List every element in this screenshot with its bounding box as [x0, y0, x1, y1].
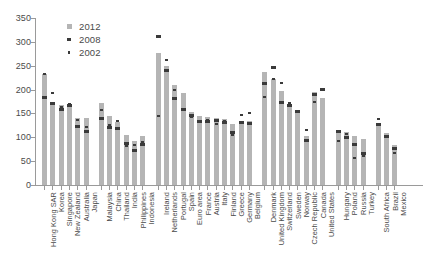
- marker-2002: [206, 119, 209, 121]
- x-axis-tick-mark: [191, 186, 192, 190]
- bar-2012: [164, 66, 169, 185]
- marker-2008: [262, 82, 267, 85]
- legend-label: 2012: [79, 21, 101, 32]
- marker-2008: [132, 149, 137, 152]
- marker-2008: [115, 127, 120, 130]
- x-axis-tick-mark: [322, 186, 323, 190]
- x-axis-label: Switzerland: [285, 192, 294, 231]
- x-axis-tick-mark: [183, 186, 184, 190]
- y-axis-tick-label: 0: [0, 180, 31, 190]
- bar-column: [304, 18, 309, 185]
- x-axis-tick-mark: [346, 186, 347, 190]
- bar-column: [392, 18, 397, 185]
- bar-2012: [239, 124, 244, 185]
- marker-2002: [296, 110, 299, 112]
- x-axis-label: Indonesia: [147, 192, 156, 225]
- x-axis-label: India: [130, 192, 139, 208]
- marker-2002: [263, 96, 266, 98]
- bar-column: [42, 18, 47, 185]
- marker-2002: [288, 102, 291, 104]
- x-axis-tick-mark: [174, 186, 175, 190]
- bar-2012: [214, 118, 219, 185]
- marker-2002: [157, 115, 160, 117]
- bar-column: [222, 18, 227, 185]
- marker-2008: [164, 69, 169, 72]
- bar-2012: [99, 103, 104, 185]
- y-axis-tick-mark: [31, 113, 35, 114]
- x-axis-label: United States: [327, 192, 336, 237]
- x-axis-label: Czech Republic: [310, 192, 319, 244]
- x-axis-tick-mark: [241, 186, 242, 190]
- y-axis-tick-label: 350: [0, 13, 31, 23]
- y-axis-tick-label: 200: [0, 85, 31, 95]
- bar-column: [107, 18, 112, 185]
- bar-2012: [42, 74, 47, 185]
- marker-2008: [336, 130, 341, 133]
- marker-2002: [248, 112, 251, 114]
- bar-2012: [205, 117, 210, 185]
- y-axis-tick-label: 100: [0, 132, 31, 142]
- x-axis-label: South Africa: [382, 192, 391, 232]
- bar-2012: [384, 133, 389, 185]
- x-axis-tick-mark: [232, 186, 233, 190]
- marker-2002: [385, 136, 388, 138]
- bar-column: [320, 18, 325, 185]
- bar-column: [140, 18, 145, 185]
- marker-2008: [84, 130, 89, 133]
- marker-2002: [182, 109, 185, 111]
- y-axis-tick-label: 150: [0, 108, 31, 118]
- marker-2002: [133, 144, 136, 146]
- marker-2008: [42, 96, 47, 99]
- marker-2008: [361, 152, 366, 155]
- marker-2008: [271, 66, 276, 69]
- x-axis-tick-mark: [52, 186, 53, 190]
- bar-2012: [156, 53, 161, 185]
- bar-2012: [247, 121, 252, 185]
- x-axis-tick-mark: [338, 186, 339, 190]
- bar-2012: [344, 132, 349, 185]
- marker-2002: [76, 119, 79, 121]
- x-axis-tick-mark: [142, 186, 143, 190]
- marker-2008: [247, 122, 252, 125]
- marker-2002: [313, 101, 316, 103]
- marker-2002: [125, 145, 128, 147]
- bar-column: [124, 18, 129, 185]
- bar-2012: [172, 85, 177, 185]
- marker-2002: [321, 89, 324, 91]
- marker-2008: [376, 123, 381, 126]
- bar-column: [181, 18, 186, 185]
- x-axis-tick-mark: [109, 186, 110, 190]
- marker-2002: [173, 89, 176, 91]
- bar-2012: [50, 102, 55, 186]
- bar-2012: [271, 79, 276, 185]
- x-axis-tick-mark: [216, 186, 217, 190]
- x-axis-tick-mark: [117, 186, 118, 190]
- legend-item: 2002: [62, 46, 101, 59]
- bar-2012: [84, 118, 89, 185]
- marker-2008: [392, 147, 397, 150]
- marker-2008: [312, 93, 317, 96]
- x-axis-label: Belgium: [253, 192, 262, 219]
- bar-column: [376, 18, 381, 185]
- bar-2012: [336, 130, 341, 185]
- marker-2002: [353, 157, 356, 159]
- bar-column: [115, 18, 120, 185]
- bar-2012: [59, 105, 64, 185]
- bar-2012: [115, 122, 120, 185]
- marker-2002: [85, 126, 88, 128]
- bar-2012: [376, 125, 381, 185]
- x-axis-tick-mark: [297, 186, 298, 190]
- bar-column: [295, 18, 300, 185]
- x-axis-tick-mark: [394, 186, 395, 190]
- marker-2002: [43, 73, 46, 75]
- bar-column: [384, 18, 389, 185]
- bar-column: [239, 18, 244, 185]
- bar-column: [279, 18, 284, 185]
- marker-2008: [50, 102, 55, 105]
- bar-column: [336, 18, 341, 185]
- marker-2002: [165, 59, 168, 61]
- bar-column: [205, 18, 210, 185]
- chart-legend: 201220082002: [62, 20, 101, 59]
- y-axis-tick-mark: [31, 90, 35, 91]
- marker-2002: [198, 120, 201, 122]
